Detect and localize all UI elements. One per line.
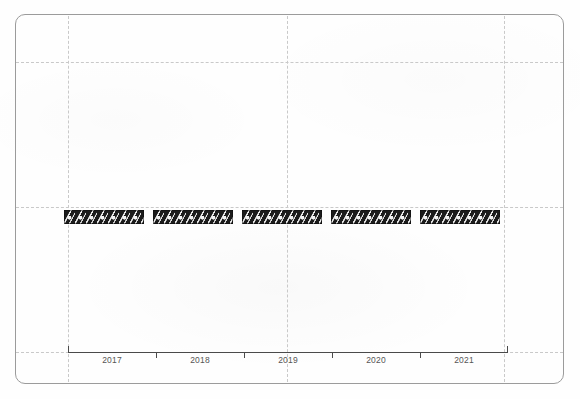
x-axis-label-2019: 2019: [266, 355, 310, 365]
x-axis-tick-0: [68, 346, 69, 352]
x-axis-label-2021: 2021: [442, 355, 486, 365]
x-axis-tick-4: [420, 352, 421, 358]
bar-2020[interactable]: [331, 210, 411, 224]
x-axis-label-2017: 2017: [90, 355, 134, 365]
gridline-horizontal-top: [16, 62, 563, 63]
x-axis-line: [68, 352, 508, 353]
x-axis-label-2020: 2020: [354, 355, 398, 365]
gridline-vertical-right: [504, 16, 505, 382]
bar-2017[interactable]: [64, 210, 144, 224]
plot-area: 2017 2018 2019 2020 2021: [0, 0, 580, 399]
x-axis-tick-1: [156, 352, 157, 358]
bar-2021[interactable]: [420, 210, 500, 224]
gridline-vertical-left: [68, 16, 69, 382]
scanned-page-background: 2017 2018 2019 2020 2021: [0, 0, 580, 399]
x-axis-label-2018: 2018: [178, 355, 222, 365]
bar-2019[interactable]: [242, 210, 322, 224]
x-axis-tick-2: [244, 352, 245, 358]
bar-2018[interactable]: [153, 210, 233, 224]
gridline-vertical-mid: [287, 16, 288, 382]
gridline-horizontal-middle: [16, 207, 563, 208]
x-axis-tick-3: [332, 352, 333, 358]
x-axis-tick-5: [507, 346, 508, 352]
